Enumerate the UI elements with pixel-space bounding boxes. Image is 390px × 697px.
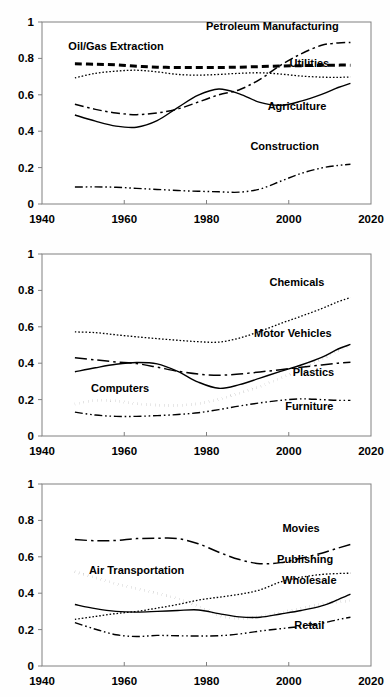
y-tick-label: 0 (28, 660, 34, 672)
series-label-air-transportation: Air Transportation (89, 564, 185, 576)
y-tick-label: 0.2 (18, 162, 34, 174)
series-label-construction: Construction (250, 140, 319, 152)
line-chart-3: 00.20.40.60.8119401960198020002020Movies… (0, 462, 390, 694)
y-tick-label: 0.6 (18, 89, 34, 101)
y-tick-label: 0 (28, 198, 34, 210)
series-label-movies: Movies (282, 522, 319, 534)
x-tick-label: 1960 (111, 675, 137, 687)
x-tick-label: 1980 (194, 445, 220, 457)
chart-panel-2: 00.20.40.60.8119401960198020002020Chemic… (0, 232, 390, 464)
series-label-furniture: Furniture (285, 400, 333, 412)
y-tick-label: 0.6 (18, 551, 34, 563)
series-label-wholesale: Wholesale (282, 574, 336, 586)
x-tick-label: 2020 (358, 213, 384, 225)
series-label-chemicals: Chemicals (269, 276, 324, 288)
y-tick-label: 0.4 (18, 587, 35, 599)
chart-panel-1: 00.20.40.60.8119401960198020002020Oil/Ga… (0, 0, 390, 232)
series-label-oil-gas-extraction: Oil/Gas Extraction (68, 40, 164, 52)
y-tick-label: 1 (28, 248, 35, 260)
series-label-motor-vehicles: Motor Vehicles (254, 327, 332, 339)
x-tick-label: 2020 (358, 445, 384, 457)
line-chart-1: 00.20.40.60.8119401960198020002020Oil/Ga… (0, 0, 390, 232)
x-tick-label: 2000 (276, 445, 302, 457)
series-label-utilities: Utilities (289, 57, 329, 69)
y-tick-label: 0.6 (18, 321, 34, 333)
series-label-computers: Computers (91, 382, 149, 394)
y-tick-label: 0 (28, 430, 34, 442)
y-tick-label: 0.4 (18, 125, 35, 137)
y-tick-label: 0.8 (18, 514, 35, 526)
x-tick-label: 2000 (276, 675, 302, 687)
x-tick-label: 1940 (29, 213, 55, 225)
figure-page: 00.20.40.60.8119401960198020002020Oil/Ga… (0, 0, 390, 697)
x-tick-label: 1980 (194, 675, 220, 687)
x-tick-label: 2000 (276, 213, 302, 225)
chart-panel-3: 00.20.40.60.8119401960198020002020Movies… (0, 462, 390, 694)
series-label-publishing: Publishing (277, 553, 333, 565)
y-tick-label: 1 (28, 478, 35, 490)
y-tick-label: 0.8 (18, 284, 35, 296)
series-label-plastics: Plastics (293, 366, 335, 378)
y-tick-label: 0.2 (18, 624, 34, 636)
series-label-retail: Retail (294, 619, 324, 631)
x-tick-label: 1980 (194, 213, 220, 225)
x-tick-label: 1960 (111, 213, 137, 225)
x-tick-label: 1940 (29, 675, 55, 687)
line-chart-2: 00.20.40.60.8119401960198020002020Chemic… (0, 232, 390, 464)
y-tick-label: 0.8 (18, 52, 35, 64)
x-tick-label: 1940 (29, 445, 55, 457)
x-tick-label: 2020 (358, 675, 384, 687)
y-tick-label: 0.2 (18, 394, 34, 406)
y-tick-label: 0.4 (18, 357, 35, 369)
x-tick-label: 1960 (111, 445, 137, 457)
series-label-agriculture: Agriculture (268, 100, 327, 112)
y-tick-label: 1 (28, 16, 35, 28)
series-label-petroleum-manufacturing: Petroleum Manufacturing (206, 20, 339, 32)
